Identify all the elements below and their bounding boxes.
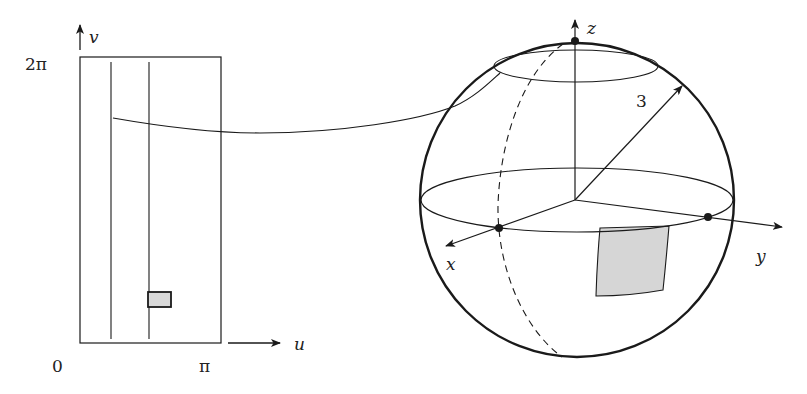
uv-patch: [148, 292, 171, 307]
sphere-parametrization-diagram: v 2π u 0 π z x: [0, 0, 807, 394]
sphere-figure: z x y 3: [420, 18, 782, 357]
x-axis-label: x: [446, 254, 456, 274]
tick-label-2pi: 2π: [25, 54, 47, 74]
y-intersection-point: [704, 213, 712, 221]
radius-label: 3: [636, 91, 647, 111]
mapping-curve: [113, 73, 500, 133]
x-axis: [446, 200, 575, 246]
radius-arrow: [575, 86, 682, 200]
x-intersection-point: [495, 224, 503, 232]
dashed-meridian: [498, 44, 563, 357]
sphere-patch: [596, 226, 669, 296]
v-axis-label: v: [89, 27, 99, 47]
y-axis-label: y: [755, 246, 766, 266]
parameter-domain: v 2π u 0 π: [25, 25, 305, 376]
y-axis: [575, 200, 782, 227]
u-axis-label: u: [294, 334, 305, 354]
z-axis-label: z: [586, 18, 597, 38]
tick-label-origin: 0: [52, 356, 63, 376]
tick-label-pi: π: [199, 356, 210, 376]
north-pole-point: [571, 37, 579, 45]
